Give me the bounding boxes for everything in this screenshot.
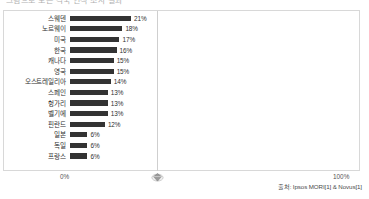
bar-row: 독일6% [3,140,360,151]
bar [70,47,117,52]
bar-track: 14% [70,77,360,88]
bar-track: 6% [70,151,360,162]
bar-value-label: 16% [120,47,133,54]
bar-value-label: 14% [114,78,127,85]
bar-category-label: 독일 [3,142,70,149]
bar-category-label: 스웨덴 [3,15,70,22]
bar [70,153,87,158]
bar-track: 6% [70,140,360,151]
bar [70,37,119,42]
bar-value-label: 6% [90,142,99,149]
bar-value-label: 13% [111,110,124,117]
bar-track: 15% [70,55,360,66]
bar [70,58,114,63]
bar-category-label: 노르웨이 [3,25,70,32]
bar-track: 13% [70,98,360,109]
bar-value-label: 13% [111,100,124,107]
bar-value-label: 15% [117,57,130,64]
bar-row: 영국15% [3,66,360,77]
bar-category-label: 스페인 [3,89,70,96]
bar-row: 벨기에13% [3,108,360,119]
bar-category-label: 오스트레일리아 [3,78,70,85]
bar [70,69,114,74]
bar-category-label: 일본 [3,131,70,138]
bar-value-label: 15% [117,68,130,75]
bar [70,132,87,137]
bar-track: 6% [70,130,360,141]
bar-row: 헝가리13% [3,98,360,109]
bar-row: 스웨덴21% [3,13,360,24]
bar [70,143,87,148]
bar-row: 캐나다15% [3,55,360,66]
bar-category-label: 한국 [3,47,70,54]
bar-value-label: 12% [108,121,121,128]
bar [70,122,105,127]
bar [70,79,111,84]
bar-track: 21% [70,13,360,24]
clipped-title-strip: 그림으로 보는 각국 인식 조사 결과 [0,0,369,7]
bar [70,100,108,105]
bar [70,16,131,21]
bar-row: 노르웨이18% [3,24,360,35]
bar-row: 스페인13% [3,87,360,98]
x-axis-tick-max: 100% [333,173,349,180]
bar-row: 오스트레일리아14% [3,77,360,88]
bar [70,111,108,116]
bar-value-label: 13% [111,89,124,96]
bar-value-label: 17% [122,36,135,43]
x-axis-tick-min: 0% [60,173,69,180]
bar-track: 16% [70,45,360,56]
diamond-marker-icon [151,172,164,182]
bar-row: 프랑스6% [3,151,360,162]
bar-category-label: 헝가리 [3,100,70,107]
bar-row: 한국16% [3,45,360,56]
bar-category-label: 프랑스 [3,153,70,160]
bar-category-label: 영국 [3,68,70,75]
bar-track: 12% [70,119,360,130]
bar-track: 13% [70,87,360,98]
bar-chart-plot-area: 스웨덴21%노르웨이18%미국17%한국16%캐나다15%영국15%오스트레일리… [3,11,360,170]
bar-category-label: 벨기에 [3,110,70,117]
bar-value-label: 21% [134,15,147,22]
bar-row: 핀란드12% [3,119,360,130]
bar-row: 일본6% [3,130,360,141]
bar-track: 18% [70,24,360,35]
bar-category-label: 핀란드 [3,121,70,128]
bar [70,90,108,95]
bar-category-label: 캐나다 [3,57,70,64]
bar-value-label: 6% [90,153,99,160]
page-title: 그림으로 보는 각국 인식 조사 결과 [6,0,123,5]
source-note: 출처: Ipsos MORI[1] & Novus[1] [278,182,362,191]
bar-value-label: 6% [90,131,99,138]
bar-track: 13% [70,108,360,119]
bar-track: 17% [70,34,360,45]
bar-row: 미국17% [3,34,360,45]
bar [70,26,122,31]
bar-value-label: 18% [125,25,138,32]
bar-category-label: 미국 [3,36,70,43]
bar-track: 15% [70,66,360,77]
